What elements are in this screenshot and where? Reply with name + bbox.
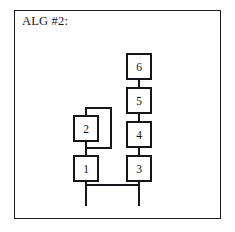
node-box-5[interactable]: 5 — [126, 87, 152, 114]
loop-right-run — [110, 107, 112, 149]
figure-root: ALG #2: 1 2 3 4 5 6 — [0, 0, 235, 232]
node-box-2[interactable]: 2 — [73, 115, 99, 142]
node-label-2: 2 — [83, 123, 89, 135]
loop-bottom-run — [85, 147, 112, 149]
bus-horizontal — [85, 184, 140, 186]
node-box-6[interactable]: 6 — [126, 53, 152, 80]
loop-top-run — [85, 107, 112, 109]
node-label-5: 5 — [136, 95, 142, 107]
node-label-1: 1 — [83, 163, 89, 175]
node-box-4[interactable]: 4 — [126, 121, 152, 148]
node-label-3: 3 — [136, 163, 142, 175]
figure-border — [14, 10, 221, 219]
node-label-6: 6 — [136, 61, 142, 73]
node-label-4: 4 — [136, 129, 142, 141]
bus-to-node-3 — [138, 181, 140, 206]
node-box-3[interactable]: 3 — [126, 155, 152, 182]
node-box-1[interactable]: 1 — [73, 155, 99, 182]
figure-title: ALG #2: — [22, 14, 68, 28]
